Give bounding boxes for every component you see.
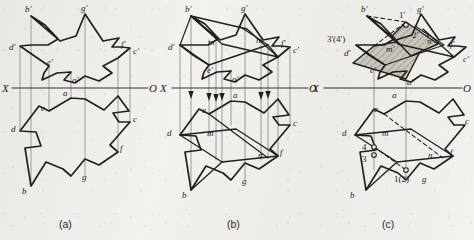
label-b-prime-b: b' bbox=[185, 4, 193, 14]
label-b-prime-c: b' bbox=[361, 4, 369, 14]
label-b-prime: b' bbox=[25, 4, 33, 14]
label-a: a bbox=[63, 88, 68, 98]
label-1-prime-c: 1' bbox=[399, 10, 406, 20]
label-b-b: b bbox=[182, 190, 187, 200]
label-d-prime: d' bbox=[9, 42, 17, 52]
panel-a: b' g' d' f' c' e' a' a e c d f g b X O (… bbox=[0, 0, 160, 240]
label-n-prime-c: n' bbox=[427, 36, 435, 46]
label-34-prime-c: 3'(4') bbox=[327, 34, 345, 44]
panel-c: b' 1' g' 2' 3'(4') m' n' f' d' c' e' a' … bbox=[310, 0, 474, 240]
label-e-b: e bbox=[202, 105, 206, 115]
label-f-prime-c: f' bbox=[450, 39, 456, 49]
label-g-b: g bbox=[242, 176, 247, 186]
label-n-c: n bbox=[428, 150, 433, 160]
panel-b: b' g' m' n' d' f' c' e' a' a e d m c n f… bbox=[155, 0, 320, 240]
axis-label-x-a: X bbox=[1, 82, 10, 94]
label-d: d bbox=[11, 124, 16, 134]
label-12-c: 1(2) bbox=[394, 174, 409, 184]
aux-plane-horizontal-b bbox=[180, 129, 278, 162]
label-4-c: 4 bbox=[362, 142, 367, 152]
star-frontal-b bbox=[180, 14, 290, 82]
axis-label-x-b: X bbox=[159, 82, 168, 94]
label-a-prime-b: a' bbox=[232, 74, 240, 84]
label-c: c bbox=[133, 114, 137, 124]
label-e-prime: e' bbox=[47, 57, 54, 67]
label-c-prime: c' bbox=[133, 46, 140, 56]
label-a-prime-c: a' bbox=[407, 77, 415, 87]
projection-arrowheads-b bbox=[188, 91, 270, 102]
label-g-prime: g' bbox=[81, 3, 89, 13]
caption-b: (b) bbox=[227, 218, 240, 230]
star-horizontal-a bbox=[20, 96, 130, 186]
axis-label-x-c: X bbox=[311, 82, 320, 94]
label-a-c: a bbox=[392, 90, 397, 100]
label-3-c: 3 bbox=[362, 154, 367, 164]
label-b: b bbox=[22, 186, 27, 196]
figure-root: b' g' d' f' c' e' a' a e c d f g b X O (… bbox=[0, 0, 474, 240]
aux-plane-frontal-b bbox=[191, 16, 278, 57]
label-c-prime-b: c' bbox=[293, 45, 300, 55]
label-m-prime-b: m' bbox=[208, 37, 217, 47]
label-d-c: d bbox=[342, 128, 347, 138]
axis-label-o-c: O bbox=[463, 82, 471, 94]
label-d-prime-c: d' bbox=[344, 48, 352, 58]
label-m-c: m bbox=[382, 128, 389, 138]
label-n-prime-b: n' bbox=[256, 35, 264, 45]
aux-plane-horizontal-c bbox=[355, 129, 453, 162]
label-d-prime-b: d' bbox=[168, 42, 176, 52]
label-g: g bbox=[82, 172, 87, 182]
star-frontal-a bbox=[20, 14, 130, 83]
label-c-b: c bbox=[293, 118, 297, 128]
label-g-prime-c: g' bbox=[417, 4, 425, 14]
label-f: f bbox=[120, 143, 124, 153]
label-a-b: a bbox=[233, 90, 238, 100]
label-c-c: c bbox=[465, 116, 469, 126]
dashed-lines-horizontal-c bbox=[374, 114, 443, 170]
label-2-prime-c: 2' bbox=[412, 30, 419, 40]
label-d-b: d bbox=[167, 128, 172, 138]
label-b-c: b bbox=[350, 190, 355, 200]
star-horizontal-b bbox=[180, 99, 290, 190]
caption-a: (a) bbox=[59, 218, 72, 230]
label-g-prime-b: g' bbox=[241, 3, 249, 13]
star-horizontal-c bbox=[355, 99, 465, 190]
label-m-prime-c: m' bbox=[386, 44, 395, 54]
label-c-prime-c: c' bbox=[463, 54, 470, 64]
label-m-b: m bbox=[207, 128, 214, 138]
label-n-b: n bbox=[258, 150, 263, 160]
label-e-c: e bbox=[374, 104, 378, 114]
label-a-prime: a' bbox=[72, 75, 80, 85]
label-g-c: g bbox=[422, 174, 427, 184]
label-f-b: f bbox=[280, 147, 284, 157]
caption-c: (c) bbox=[382, 218, 394, 230]
label-e: e bbox=[41, 103, 45, 113]
